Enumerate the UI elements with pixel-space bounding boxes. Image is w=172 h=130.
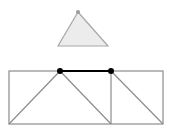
node-dot-1 bbox=[57, 68, 63, 74]
frame-diagonal-3 bbox=[111, 71, 163, 124]
frame-diagonals bbox=[9, 71, 163, 124]
frame-diagonal-1 bbox=[9, 71, 60, 124]
frame-diagonal-2 bbox=[60, 71, 111, 124]
diagram-canvas bbox=[0, 0, 172, 130]
triangle-apex-dot bbox=[76, 10, 80, 14]
floating-triangle bbox=[58, 12, 108, 46]
node-dot-2 bbox=[108, 68, 114, 74]
